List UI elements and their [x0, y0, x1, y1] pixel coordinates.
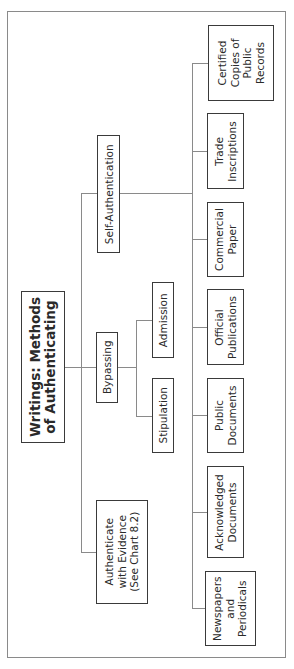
node-label-line-2: Copies of [228, 39, 241, 88]
node-certified-copies: Certified Copies of Public Records [208, 25, 274, 101]
connector-bypassing-subbus [118, 367, 136, 368]
node-label-line-2: Paper [226, 208, 239, 271]
node-authenticate-with-evidence: Authenticate with Evidence (See Chart 8.… [96, 500, 148, 604]
node-label-line-1: Authenticate [103, 512, 116, 592]
node-label-line-1: Commercial [213, 208, 226, 271]
connector-root-spine [65, 367, 82, 368]
title-line-1: Writings: Methods [28, 297, 43, 437]
connector-to-official [192, 327, 207, 328]
connector-to-certified [192, 63, 208, 64]
node-admission: Admission [152, 282, 174, 358]
node-label-line-1: Trade [213, 121, 226, 181]
connector-to-commercial [192, 239, 207, 240]
node-official-publications: Official Publications [207, 289, 244, 365]
node-label-line-3: Public [241, 39, 254, 88]
node-newspapers-periodicals: Newspapers and Periodicals [205, 571, 256, 646]
connector-to-stipulation [136, 416, 152, 417]
node-label: Self-Authentication [102, 144, 115, 244]
node-label-line-1: Public [213, 386, 226, 446]
node-bypassing: Bypassing [96, 332, 118, 403]
node-label-line-2: Publications [226, 295, 239, 358]
connector-to-acknowledged [192, 512, 207, 513]
connector-spine-bypassing [81, 367, 96, 368]
node-label-line-1: Certified [216, 39, 229, 88]
node-label-line-1: Official [213, 295, 226, 358]
connector-spine-authenticate [81, 552, 96, 553]
node-commercial-paper: Commercial Paper [207, 202, 244, 277]
node-acknowledged-documents: Acknowledged Documents [207, 466, 244, 558]
title-line-2: of Authenticating [43, 297, 58, 437]
node-label-line-2: Documents [226, 386, 239, 446]
connector-self-auth-bus [120, 193, 192, 194]
node-label-line-4: Records [253, 39, 266, 88]
connector-main-spine [81, 193, 82, 553]
connector-to-trade [192, 151, 207, 152]
node-label: Bypassing [101, 341, 114, 395]
connector-to-public-docs [192, 415, 207, 416]
connector-to-newspapers [192, 608, 205, 609]
node-label-line-3: (See Chart 8.2) [128, 512, 141, 592]
node-label-line-3: Periodicals [237, 576, 250, 640]
node-label-line-2: Documents [226, 474, 239, 550]
connector-bypassing-subbus-vertical [136, 320, 137, 417]
root-node-writings-methods: Writings: Methods of Authenticating [21, 291, 65, 443]
connector-to-admission [136, 320, 152, 321]
node-label-line-2: Inscriptions [226, 121, 239, 181]
node-label: Stipulation [157, 387, 170, 443]
connector-self-auth-bus-vertical [192, 63, 193, 609]
connector-spine-self-auth [81, 193, 97, 194]
node-label-line-1: Acknowledged [213, 474, 226, 550]
node-trade-inscriptions: Trade Inscriptions [207, 113, 244, 189]
node-label-line-1: Newspapers [212, 576, 225, 640]
node-label: Admission [157, 293, 170, 347]
node-stipulation: Stipulation [152, 378, 174, 453]
node-self-authentication: Self-Authentication [97, 135, 120, 253]
node-label-line-2: and [224, 576, 237, 640]
node-public-documents: Public Documents [207, 378, 244, 453]
node-label-line-2: with Evidence [116, 512, 129, 592]
